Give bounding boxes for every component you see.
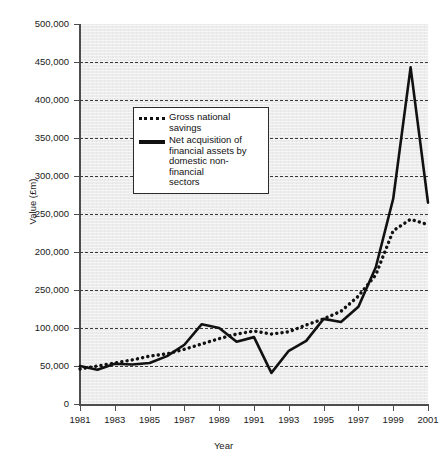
x-axis-title: Year [0, 440, 447, 451]
series-line-0 [80, 219, 428, 369]
legend-swatch-solid-icon [139, 140, 165, 144]
legend-label-1-line-4: sectors [169, 176, 200, 187]
legend-label-1: Net acquisition of financial assets by d… [169, 135, 263, 188]
series-lines [0, 0, 447, 472]
legend-label-1-line-3: domestic non-financial [169, 155, 229, 177]
legend-label-1-line-2: financial assets by [169, 145, 247, 156]
legend-swatch-dotted-icon [139, 117, 165, 120]
legend-item-gross-national-savings: Gross national savings [139, 112, 263, 133]
y-axis-title: Value (£m) [27, 157, 38, 247]
legend-label-0: Gross national savings [169, 112, 263, 133]
legend-label-1-line-1: Net acquisition of [169, 134, 242, 145]
legend-item-net-acquisition: Net acquisition of financial assets by d… [139, 135, 263, 188]
chart-legend: Gross national savings Net acquisition o… [133, 107, 269, 194]
chart-container: 050,000100,000250,000200,000250,000300,0… [0, 0, 447, 472]
